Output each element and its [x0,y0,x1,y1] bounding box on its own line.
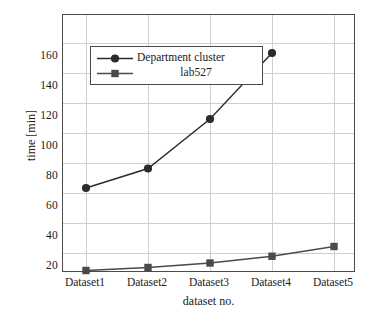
y-tick-20: 20 [24,260,58,272]
x-tick-dataset4: Dataset4 [251,276,291,288]
x-tick-dataset2: Dataset2 [127,276,167,288]
series-lab527-line [86,247,334,271]
legend-label-lab527: lab527 [134,66,255,79]
legend-label-department-cluster: Department cluster [134,51,225,64]
x-axis-label: dataset no. [62,294,355,309]
line-chart-figure: time [min] 160 140 120 100 80 60 40 20 [0,0,379,318]
x-tick-dataset5: Dataset5 [313,276,353,288]
marker-department-cluster-dataset1 [82,184,90,192]
legend: Department cluster lab527 [90,46,263,85]
marker-department-cluster-dataset4 [268,49,276,57]
x-tick-dataset1: Dataset1 [65,276,105,288]
marker-lab527-dataset1 [82,267,89,274]
marker-department-cluster-dataset2 [144,164,152,172]
y-tick-60: 60 [24,200,58,212]
y-tick-40: 40 [24,230,58,242]
y-tick-160: 160 [24,50,58,62]
legend-marker-circle-icon [96,51,134,64]
y-tick-120: 120 [24,110,58,122]
x-axis-tick-labels: Dataset1 Dataset2 Dataset3 Dataset4 Data… [62,276,355,294]
x-tick-dataset3: Dataset3 [189,276,229,288]
y-tick-80: 80 [24,170,58,182]
y-tick-100: 100 [24,140,58,152]
legend-entry-department-cluster: Department cluster [96,50,255,65]
y-axis-tick-labels: 160 140 120 100 80 60 40 20 [18,14,58,272]
marker-lab527-dataset5 [330,243,337,250]
y-tick-140: 140 [24,80,58,92]
marker-department-cluster-dataset3 [206,115,214,123]
plot-area: Department cluster lab527 [62,14,355,272]
marker-lab527-dataset3 [206,259,213,266]
marker-lab527-dataset2 [144,264,151,271]
legend-marker-square-icon [96,66,134,79]
legend-entry-lab527: lab527 [96,65,255,80]
marker-lab527-dataset4 [268,253,275,260]
